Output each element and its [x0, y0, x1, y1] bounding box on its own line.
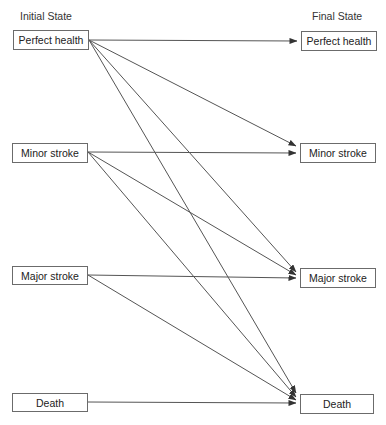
transition-arrow — [88, 152, 296, 275]
transition-arrow — [88, 275, 296, 278]
transition-arrow — [88, 402, 296, 403]
final-state-death: Death — [300, 394, 374, 414]
state-label: Major stroke — [21, 270, 79, 282]
transition-arrows — [0, 0, 386, 425]
transition-arrow — [88, 275, 296, 400]
transition-arrow — [89, 40, 297, 41]
final-state-minor-stroke: Minor stroke — [300, 143, 376, 163]
transition-arrow — [89, 40, 296, 272]
state-label: Minor stroke — [21, 147, 79, 159]
initial-state-minor-stroke: Minor stroke — [12, 143, 88, 163]
initial-state-major-stroke: Major stroke — [12, 266, 88, 285]
state-label: Minor stroke — [309, 147, 367, 159]
state-label: Perfect health — [307, 35, 372, 47]
state-label: Death — [36, 397, 64, 409]
final-state-perfect-health: Perfect health — [301, 31, 377, 51]
state-label: Major stroke — [309, 272, 367, 284]
transition-arrow — [88, 152, 296, 153]
state-label: Perfect health — [19, 34, 84, 46]
state-label: Death — [323, 398, 351, 410]
initial-state-death: Death — [12, 393, 88, 412]
final-state-major-stroke: Major stroke — [300, 268, 376, 288]
transition-arrow — [88, 152, 296, 397]
initial-state-perfect-health: Perfect health — [13, 30, 89, 50]
